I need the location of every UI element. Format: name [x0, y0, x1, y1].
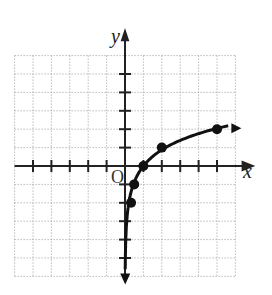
graph	[0, 0, 272, 295]
x-axis-label: x	[243, 160, 252, 183]
y-axis-label: y	[111, 25, 120, 48]
origin-label: O	[111, 167, 124, 188]
